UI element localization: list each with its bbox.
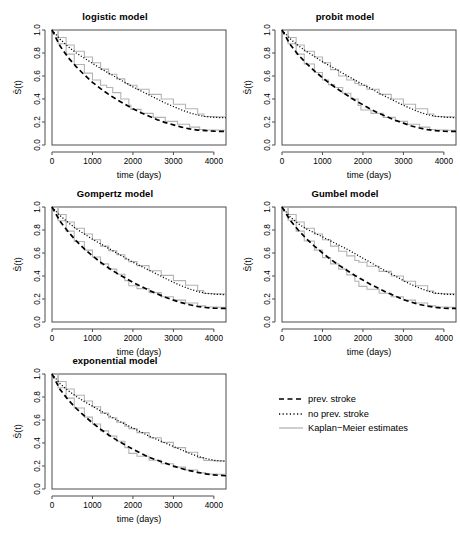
- prev-stroke-curve: [52, 207, 226, 308]
- legend-label: no prev. stroke: [304, 409, 369, 419]
- plot-canvas: 01000200030004000time (days)0.00.20.40.6…: [0, 185, 230, 363]
- kaplan-meier-curve: [52, 30, 226, 130]
- y-tick-label: 0.0: [33, 139, 42, 151]
- plot-frame: [52, 207, 226, 322]
- x-axis-title: time (days): [117, 514, 162, 524]
- y-tick-label: 0.0: [263, 139, 272, 151]
- plot-canvas: 01000200030004000time (days)0.00.20.40.6…: [0, 8, 230, 186]
- no-prev-stroke-curve: [52, 374, 226, 461]
- panel-gompertz-model: Gompertz model 01000200030004000time (da…: [0, 185, 230, 363]
- y-tick-label: 0.4: [33, 437, 42, 449]
- x-tick-label: 1000: [83, 334, 102, 343]
- dotted-line-icon: [278, 407, 304, 421]
- x-tick-label: 3000: [164, 157, 183, 166]
- dashed-line-icon: [278, 392, 304, 406]
- prev-stroke-curve: [52, 374, 226, 476]
- y-axis-title: Ŝ(t): [243, 257, 253, 272]
- y-tick-label: 1.0: [33, 24, 42, 36]
- kaplan-meier-curve: [52, 30, 226, 117]
- y-tick-label: 0.4: [263, 270, 272, 282]
- x-tick-label: 0: [50, 334, 55, 343]
- y-tick-label: 1.0: [33, 201, 42, 213]
- y-tick-label: 0.8: [263, 47, 272, 59]
- legend-item-kaplan-meier: Kaplan−Meier estimates: [278, 421, 458, 436]
- no-prev-stroke-curve: [52, 207, 226, 295]
- y-tick-label: 0.2: [263, 116, 272, 128]
- plot-frame: [282, 207, 456, 322]
- prev-stroke-curve: [282, 30, 456, 131]
- prev-stroke-curve: [52, 30, 226, 131]
- x-axis-title: time (days): [347, 170, 392, 180]
- y-tick-label: 0.4: [33, 93, 42, 105]
- prev-stroke-curve: [282, 207, 456, 308]
- x-axis-title: time (days): [117, 170, 162, 180]
- y-tick-label: 0.6: [263, 247, 272, 259]
- y-tick-label: 1.0: [33, 368, 42, 380]
- x-tick-label: 3000: [164, 501, 183, 510]
- y-axis-title: Ŝ(t): [13, 80, 23, 95]
- x-tick-label: 2000: [354, 334, 373, 343]
- panel-exponential-model: exponential model 01000200030004000time …: [0, 352, 230, 530]
- y-tick-label: 0.8: [33, 47, 42, 59]
- kaplan-meier-curve: [282, 207, 456, 294]
- x-tick-label: 4000: [205, 501, 224, 510]
- y-tick-label: 0.8: [33, 224, 42, 236]
- x-tick-label: 4000: [205, 157, 224, 166]
- y-tick-label: 0.6: [33, 414, 42, 426]
- legend-item-prev-stroke: prev. stroke: [278, 392, 458, 407]
- y-axis-title: Ŝ(t): [243, 80, 253, 95]
- y-tick-label: 0.4: [33, 270, 42, 282]
- y-tick-label: 0.0: [33, 483, 42, 495]
- panel-logistic-model: logistic model 01000200030004000time (da…: [0, 8, 230, 186]
- x-tick-label: 0: [280, 334, 285, 343]
- y-tick-label: 0.2: [33, 116, 42, 128]
- panel-gumbel-model: Gumbel model 01000200030004000time (days…: [230, 185, 460, 363]
- kaplan-meier-curve: [282, 30, 456, 117]
- x-tick-label: 4000: [205, 334, 224, 343]
- kaplan-meier-curve: [52, 374, 226, 474]
- y-tick-label: 0.0: [263, 316, 272, 328]
- plot-canvas: 01000200030004000time (days)0.00.20.40.6…: [0, 352, 230, 530]
- y-tick-label: 0.4: [263, 93, 272, 105]
- x-tick-label: 3000: [164, 334, 183, 343]
- legend: prev. stroke no prev. stroke Kaplan−Meie…: [278, 392, 458, 440]
- y-tick-label: 0.2: [33, 293, 42, 305]
- y-tick-label: 1.0: [263, 24, 272, 36]
- y-axis-title: Ŝ(t): [13, 257, 23, 272]
- legend-label: Kaplan−Meier estimates: [304, 423, 408, 433]
- x-tick-label: 2000: [124, 157, 143, 166]
- no-prev-stroke-curve: [282, 30, 456, 118]
- kaplan-meier-curve: [282, 207, 456, 307]
- survival-curves-figure: logistic model 01000200030004000time (da…: [0, 0, 460, 535]
- x-tick-label: 2000: [354, 157, 373, 166]
- kaplan-meier-curve: [52, 374, 226, 461]
- x-axis-title: time (days): [347, 347, 392, 357]
- y-tick-label: 0.6: [263, 70, 272, 82]
- y-tick-label: 0.6: [33, 247, 42, 259]
- x-tick-label: 0: [280, 157, 285, 166]
- legend-item-no-prev-stroke: no prev. stroke: [278, 407, 458, 422]
- kaplan-meier-curve: [52, 207, 226, 294]
- y-tick-label: 0.8: [33, 391, 42, 403]
- no-prev-stroke-curve: [52, 30, 226, 118]
- panel-probit-model: probit model 01000200030004000time (days…: [230, 8, 460, 186]
- y-tick-label: 0.2: [33, 460, 42, 472]
- solid-line-icon: [278, 421, 304, 435]
- x-tick-label: 3000: [394, 334, 413, 343]
- y-tick-label: 0.2: [263, 293, 272, 305]
- no-prev-stroke-curve: [282, 207, 456, 295]
- x-tick-label: 3000: [394, 157, 413, 166]
- x-tick-label: 1000: [313, 157, 332, 166]
- x-tick-label: 0: [50, 501, 55, 510]
- legend-label: prev. stroke: [304, 394, 356, 404]
- y-tick-label: 1.0: [263, 201, 272, 213]
- x-tick-label: 1000: [83, 501, 102, 510]
- x-tick-label: 4000: [435, 157, 454, 166]
- x-tick-label: 4000: [435, 334, 454, 343]
- plot-canvas: 01000200030004000time (days)0.00.20.40.6…: [230, 8, 460, 186]
- x-tick-label: 2000: [124, 334, 143, 343]
- y-tick-label: 0.0: [33, 316, 42, 328]
- y-tick-label: 0.8: [263, 224, 272, 236]
- y-axis-title: Ŝ(t): [13, 424, 23, 439]
- plot-canvas: 01000200030004000time (days)0.00.20.40.6…: [230, 185, 460, 363]
